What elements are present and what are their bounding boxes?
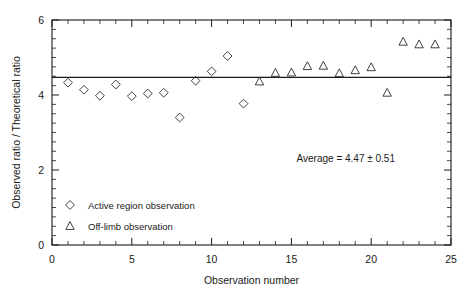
data-point-diamond <box>159 88 168 97</box>
data-point-triangle <box>303 62 311 70</box>
x-tick-label: 25 <box>445 253 457 265</box>
scatter-plot-figure: 0510152025 0246 Observation number Obser… <box>0 0 476 290</box>
data-point-diamond <box>143 89 152 98</box>
series-active-region-observation <box>64 52 248 122</box>
data-point-triangle <box>255 77 263 85</box>
x-tick-label: 15 <box>286 253 298 265</box>
data-point-triangle <box>367 63 375 71</box>
data-point-triangle <box>319 61 327 69</box>
data-point-diamond <box>175 113 184 122</box>
legend-entry-off-limb: Off-limb observation <box>66 221 173 232</box>
x-tick-label: 10 <box>206 253 218 265</box>
data-point-diamond <box>223 52 232 61</box>
x-axis-tick-labels: 0510152025 <box>49 253 457 265</box>
y-tick-label: 6 <box>38 14 44 26</box>
legend-label-off-limb: Off-limb observation <box>88 221 173 232</box>
y-tick-label: 4 <box>38 89 44 101</box>
chart-legend: Active region observation Off-limb obser… <box>66 200 195 232</box>
data-point-diamond <box>95 91 104 100</box>
data-point-diamond <box>80 85 89 94</box>
series-off-limb-observation <box>255 37 439 96</box>
average-annotation: Average = 4.47 ± 0.51 <box>297 153 396 164</box>
data-point-triangle <box>335 69 343 77</box>
legend-label-active-region: Active region observation <box>88 200 195 211</box>
data-point-triangle <box>351 66 359 74</box>
triangle-marker-icon <box>66 222 74 230</box>
data-point-triangle <box>287 68 295 76</box>
data-point-diamond <box>239 99 248 108</box>
minor-tick-marks <box>52 20 451 245</box>
data-point-triangle <box>271 68 279 76</box>
major-tick-marks <box>52 20 451 245</box>
x-tick-label: 5 <box>129 253 135 265</box>
data-point-triangle <box>383 88 391 96</box>
x-axis-title: Observation number <box>204 274 300 286</box>
data-point-diamond <box>127 92 136 101</box>
data-point-triangle <box>415 40 423 48</box>
x-tick-label: 20 <box>365 253 377 265</box>
y-tick-label: 2 <box>38 164 44 176</box>
data-point-triangle <box>399 37 407 45</box>
data-point-triangle <box>431 40 439 48</box>
chart-canvas: 0510152025 0246 Observation number Obser… <box>0 0 476 290</box>
diamond-marker-icon <box>66 201 75 210</box>
y-axis-title: Observed ratio / Theoretical ratio <box>10 56 22 209</box>
plot-frame <box>52 20 451 245</box>
legend-entry-active-region: Active region observation <box>66 200 195 211</box>
x-tick-label: 0 <box>49 253 55 265</box>
data-point-diamond <box>207 67 216 76</box>
y-tick-label: 0 <box>38 239 44 251</box>
data-point-diamond <box>64 78 73 87</box>
data-point-diamond <box>111 80 120 89</box>
y-axis-tick-labels: 0246 <box>38 14 44 251</box>
